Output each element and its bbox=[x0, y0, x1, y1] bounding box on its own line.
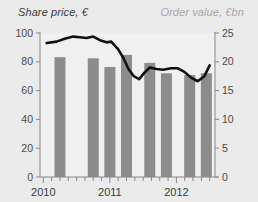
x-tick-label: 2010 bbox=[31, 186, 55, 198]
chart-plot: 020406080100 0510152025 201020112012 bbox=[0, 0, 258, 202]
left-tick-label: 0 bbox=[27, 171, 33, 183]
left-axis-ticks: 020406080100 bbox=[15, 27, 40, 183]
bar bbox=[54, 57, 65, 177]
left-tick-label: 80 bbox=[21, 55, 33, 67]
bar bbox=[104, 67, 115, 177]
bar bbox=[184, 75, 195, 177]
x-tick-label: 2012 bbox=[164, 186, 188, 198]
bar bbox=[88, 58, 99, 177]
right-axis-ticks: 0510152025 bbox=[215, 27, 234, 183]
right-tick-label: 10 bbox=[222, 113, 234, 125]
left-tick-label: 40 bbox=[21, 113, 33, 125]
x-axis-ticks: 201020112012 bbox=[31, 177, 210, 198]
right-tick-label: 5 bbox=[222, 142, 228, 154]
bar bbox=[144, 63, 155, 177]
right-tick-label: 25 bbox=[222, 27, 234, 39]
right-tick-label: 0 bbox=[222, 171, 228, 183]
right-tick-label: 20 bbox=[222, 55, 234, 67]
right-tick-label: 15 bbox=[222, 84, 234, 96]
left-tick-label: 100 bbox=[15, 27, 33, 39]
bar bbox=[201, 73, 212, 177]
bar bbox=[161, 73, 172, 177]
left-tick-label: 20 bbox=[21, 142, 33, 154]
x-tick-label: 2011 bbox=[98, 186, 122, 198]
chart-container: Share price, € Order value, €bn 02040608… bbox=[0, 0, 258, 202]
left-tick-label: 60 bbox=[21, 84, 33, 96]
